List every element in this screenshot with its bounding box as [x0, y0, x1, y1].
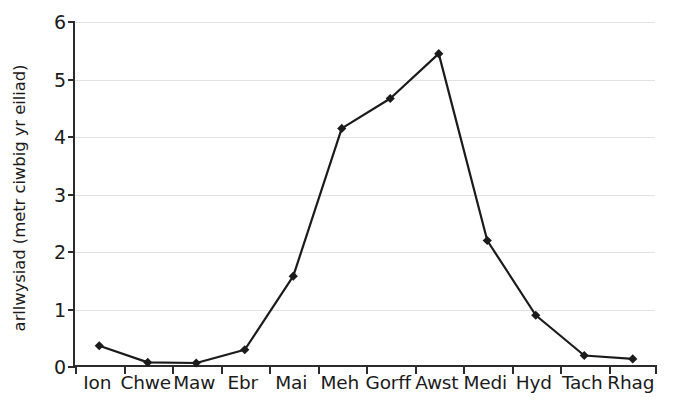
discharge-line-chart: arllwysiad (metr ciwbig yr eiliad) 01234… — [0, 0, 674, 415]
x-axis-tick-label: Rhag — [607, 372, 654, 393]
x-axis-tick-labels: IonChweMawEbrMaiMehGorffAwstMediHydTachR… — [73, 372, 655, 406]
x-axis-tick-label: Ebr — [228, 372, 258, 393]
data-point-marker — [95, 341, 104, 350]
y-axis-tickmark — [68, 251, 75, 253]
y-axis-tick-label: 2 — [54, 241, 66, 263]
y-axis-tick-label: 0 — [54, 356, 66, 378]
y-axis-tick-labels: 0123456 — [40, 0, 66, 415]
x-axis-tick-label: Medi — [464, 372, 507, 393]
y-axis-tick-label: 3 — [54, 184, 66, 206]
y-axis-tickmark — [68, 79, 75, 81]
series-line — [75, 22, 657, 367]
y-axis-tick-label: 4 — [54, 126, 66, 148]
y-axis-tick-label: 6 — [54, 11, 66, 33]
y-axis-tickmark — [68, 194, 75, 196]
x-axis-tick-label: Maw — [173, 372, 215, 393]
x-axis-tick-label: Chwe — [121, 372, 171, 393]
y-axis-tickmark — [68, 21, 75, 23]
data-point-marker — [192, 358, 201, 367]
plot-area — [73, 22, 655, 367]
y-axis-title: arllwysiad (metr ciwbig yr eiliad) — [4, 8, 34, 388]
y-axis-tickmark — [68, 366, 75, 368]
y-axis-tick-label: 5 — [54, 69, 66, 91]
y-axis-tickmark — [68, 309, 75, 311]
data-point-marker — [628, 354, 637, 363]
x-axis-tick-label: Hyd — [516, 372, 552, 393]
x-axis-tick-label: Tach — [562, 372, 603, 393]
y-axis-tick-label: 1 — [54, 299, 66, 321]
data-point-marker — [143, 358, 152, 367]
x-axis-tick-label: Ion — [83, 372, 111, 393]
x-axis-tick-label: Gorff — [366, 372, 411, 393]
x-axis-tick-label: Meh — [321, 372, 359, 393]
x-axis-tick-label: Mai — [275, 372, 307, 393]
x-axis-tick-label: Awst — [415, 372, 458, 393]
series-polyline — [99, 54, 633, 363]
y-axis-tickmark — [68, 136, 75, 138]
